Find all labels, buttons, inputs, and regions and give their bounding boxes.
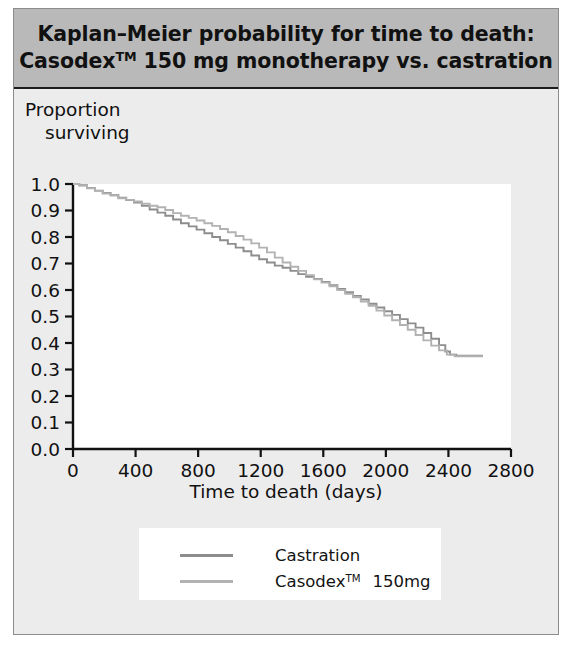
y-axis-title-line-1: Proportion [25,99,120,120]
km-curve-castration [73,184,483,356]
y-tick-label: 0.5 [31,306,60,327]
chart-title-brand: Casodex [19,49,115,73]
chart-title-banner: Kaplan–Meier probability for time to dea… [14,9,558,89]
x-tick-label: 800 [180,460,215,481]
chart-title-line-2-rest: 150 mg monotherapy vs. castration [137,49,553,73]
x-tick-label: 2000 [362,460,409,481]
x-tick-label: 0 [67,460,79,481]
chart-body: Proportion surviving 0.00.10.20.30.40.50… [14,91,558,634]
y-tick-label: 0.7 [31,253,60,274]
legend-label-castration: Castration [275,546,360,565]
legend-trademark-symbol: TM [345,572,360,583]
chart-title-line-2: CasodexTM 150 mg monotherapy vs. castrat… [19,48,553,75]
x-tick-label: 2400 [425,460,472,481]
x-tick-label: 400 [118,460,153,481]
y-tick-label: 1.0 [31,174,60,195]
plot-svg: 0.00.10.20.30.40.50.60.70.80.91.00400800… [73,184,511,449]
trademark-symbol: TM [115,49,136,64]
y-tick-label: 0.6 [31,280,60,301]
y-tick-label: 0.1 [31,412,60,433]
y-axis-title: Proportion surviving [25,99,130,145]
y-tick-label: 0.3 [31,359,60,380]
plot-panel: 0.00.10.20.30.40.50.60.70.80.91.00400800… [73,184,511,449]
y-tick-label: 0.2 [31,386,60,407]
y-tick-label: 0.0 [31,439,60,460]
chart-legend: Castration CasodexTM150mg [139,528,441,600]
x-axis-title: Time to death (days) [14,481,558,502]
legend-item-castration: Castration [139,542,441,568]
x-tick-label: 1600 [300,460,347,481]
legend-label-casodex-dose: 150mg [373,572,431,591]
y-tick-label: 0.8 [31,227,60,248]
x-tick-label: 2800 [487,460,534,481]
y-tick-label: 0.9 [31,200,60,221]
chart-title-line-1: Kaplan–Meier probability for time to dea… [37,21,534,48]
x-tick-label: 1200 [237,460,284,481]
legend-label-casodex-brand: Casodex [275,572,345,591]
y-axis-title-line-2: surviving [25,122,130,145]
legend-swatch-castration [180,554,233,557]
km-curve-casodex [73,184,483,356]
legend-label-casodex: CasodexTM150mg [275,572,431,591]
figure-frame: Kaplan–Meier probability for time to dea… [13,8,559,635]
y-tick-label: 0.4 [31,333,60,354]
legend-swatch-casodex [180,580,233,583]
legend-item-casodex: CasodexTM150mg [139,568,441,594]
